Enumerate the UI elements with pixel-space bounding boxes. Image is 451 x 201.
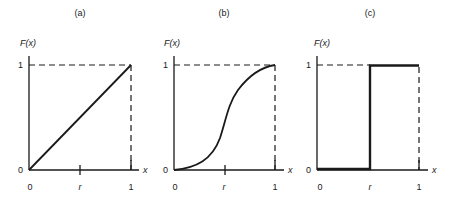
cdf-curve-linear — [29, 65, 131, 170]
cdf-figure: (a) F(x) 1 0 0 r 1 x (b) F(x) 1 0 0 r 1 — [0, 0, 451, 201]
panel-b: (b) F(x) 1 0 0 r 1 x — [163, 8, 293, 192]
y-tick-1: 1 — [18, 60, 23, 70]
y-tick-0: 0 — [163, 165, 168, 175]
x-axis-label: x — [142, 165, 148, 175]
x-tick-0: 0 — [27, 182, 32, 192]
panel-c: (c) F(x) 1 0 0 r 1 x — [306, 8, 437, 192]
cdf-curve-sigmoid — [174, 65, 275, 170]
x-tick-r: r — [369, 182, 373, 192]
panel-title: (a) — [75, 8, 86, 18]
x-tick-r: r — [79, 182, 83, 192]
y-tick-1: 1 — [163, 60, 168, 70]
y-axis-label: F(x) — [314, 38, 330, 48]
x-axis-label: x — [431, 165, 437, 175]
x-tick-0: 0 — [172, 182, 177, 192]
cdf-curve-step — [317, 66, 419, 170]
y-axis-label: F(x) — [164, 38, 180, 48]
x-tick-1: 1 — [272, 182, 277, 192]
x-tick-1: 1 — [128, 182, 133, 192]
x-tick-0: 0 — [317, 182, 322, 192]
y-tick-0: 0 — [18, 165, 23, 175]
panel-title: (b) — [219, 8, 230, 18]
y-axis-label: F(x) — [20, 38, 36, 48]
x-tick-r: r — [223, 182, 227, 192]
y-tick-0: 0 — [306, 165, 311, 175]
y-tick-1: 1 — [306, 60, 311, 70]
x-axis-label: x — [287, 165, 293, 175]
panel-a: (a) F(x) 1 0 0 r 1 x — [18, 8, 148, 192]
x-tick-1: 1 — [416, 182, 421, 192]
panel-title: (c) — [365, 8, 376, 18]
